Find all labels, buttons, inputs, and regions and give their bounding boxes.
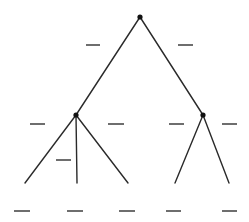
tree-edge	[76, 115, 128, 183]
tree-node-right	[200, 112, 205, 117]
tree-nodes	[73, 14, 205, 117]
tree-node-root	[137, 14, 142, 19]
tree-edge	[140, 17, 203, 115]
tree-diagram	[0, 0, 249, 222]
tree-edges	[25, 17, 229, 183]
tree-edge	[25, 115, 76, 183]
tree-edge	[175, 115, 203, 183]
tree-edge	[203, 115, 229, 183]
tree-diagram-svg	[0, 0, 249, 222]
answer-blanks	[14, 45, 237, 211]
tree-node-left	[73, 112, 78, 117]
tree-edge	[76, 115, 77, 183]
tree-edge	[76, 17, 140, 115]
